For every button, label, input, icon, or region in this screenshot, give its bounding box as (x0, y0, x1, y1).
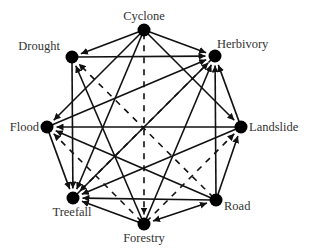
edge-cyclone-to-flood (54, 32, 142, 120)
node-landslide (235, 121, 248, 134)
node-herbivory (209, 50, 222, 63)
node-flood (41, 121, 54, 134)
edge-flood-to-treefall (48, 130, 70, 189)
node-label-herbivory: Herbivory (217, 37, 269, 51)
edge-road-to-herbivory (215, 66, 216, 197)
node-label-landslide: Landslide (249, 120, 299, 134)
node-treefall (67, 192, 80, 205)
node-label-forestry: Forestry (123, 231, 165, 245)
edge-road-to-drought (79, 64, 214, 198)
node-label-treefall: Treefall (52, 205, 92, 219)
edge-road-to-treefall (83, 198, 213, 200)
causal-network-diagram: CycloneDroughtHerbivoryFloodLandslideTre… (0, 0, 309, 252)
node-cyclone (138, 24, 151, 37)
edge-road-to-forestry (153, 203, 207, 221)
edge-drought-to-herbivory (75, 56, 205, 57)
edge-road-to-flood (56, 131, 213, 199)
node-drought (66, 51, 79, 64)
node-label-flood: Flood (10, 120, 40, 134)
node-road (210, 194, 223, 207)
edge-drought-to-treefall (72, 60, 73, 188)
node-forestry (138, 218, 151, 231)
edge-road-to-landslide (217, 136, 238, 197)
node-label-drought: Drought (18, 39, 60, 53)
node-label-cyclone: Cyclone (123, 9, 165, 23)
node-label-road: Road (224, 199, 251, 213)
